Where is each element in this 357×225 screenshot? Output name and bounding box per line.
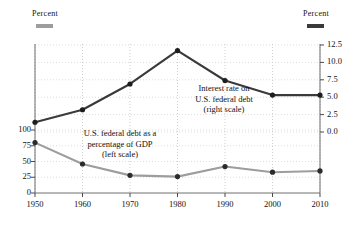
data-point-marker	[127, 81, 132, 86]
data-point-marker	[127, 173, 132, 178]
annotation-interest-rate-line2: U.S. federal debt	[172, 94, 276, 105]
annotation-interest-rate: Interest rate on U.S. federal debt (righ…	[172, 83, 276, 115]
x-axis-tick-label: 1970	[115, 199, 145, 209]
annotation-debt-gdp-line1: U.S. federal debt as a	[58, 128, 182, 139]
right-axis-tick-label: 0.0	[327, 126, 338, 136]
left-axis-tick-label: 50	[7, 156, 31, 166]
data-point-marker	[317, 93, 322, 98]
x-axis-tick-label: 2010	[305, 199, 335, 209]
left-axis-tick-label: 0	[7, 187, 31, 197]
data-point-marker	[222, 164, 227, 169]
annotation-debt-gdp-line2: percentage of GDP	[58, 139, 182, 150]
x-axis-tick-label: 1980	[163, 199, 193, 209]
data-point-marker	[317, 168, 322, 173]
data-point-marker	[175, 48, 180, 53]
x-axis-tick-label: 1960	[68, 199, 98, 209]
right-axis-tick-label: 7.5	[327, 74, 338, 84]
left-axis-tick-label: 75	[7, 140, 31, 150]
data-point-marker	[175, 174, 180, 179]
data-point-marker	[80, 107, 85, 112]
data-point-marker	[80, 161, 85, 166]
x-axis-tick-label: 1950	[20, 199, 50, 209]
x-axis-tick-label: 2000	[258, 199, 288, 209]
data-point-marker	[32, 140, 37, 145]
left-axis-tick-label: 25	[7, 171, 31, 181]
right-axis-tick-label: 2.5	[327, 109, 338, 119]
data-point-marker	[32, 120, 37, 125]
annotation-debt-gdp-line3: (left scale)	[58, 149, 182, 160]
left-axis-tick-label: 100	[7, 124, 31, 134]
right-axis-tick-label: 10.0	[327, 56, 342, 66]
annotation-interest-rate-line3: (right scale)	[172, 104, 276, 115]
right-axis-tick-label: 12.5	[327, 39, 342, 49]
chart-figure: Percent Percent Interest rate on U.S. fe…	[0, 0, 357, 225]
x-axis-tick-label: 1990	[210, 199, 240, 209]
data-point-marker	[270, 170, 275, 175]
annotation-interest-rate-line1: Interest rate on	[172, 83, 276, 94]
right-axis-tick-label: 5.0	[327, 91, 338, 101]
annotation-debt-gdp: U.S. federal debt as a percentage of GDP…	[58, 128, 182, 160]
